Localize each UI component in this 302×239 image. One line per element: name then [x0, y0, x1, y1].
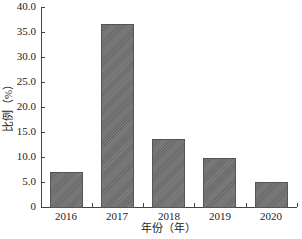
- x-tick-mark: [297, 203, 298, 207]
- bar-2018: [152, 139, 185, 208]
- x-tick-label: 2016: [46, 211, 86, 222]
- bar-2019: [203, 158, 236, 208]
- y-tick-mark: [41, 157, 45, 158]
- bar-chart: 05.010.015.020.025.030.035.040.0 2016201…: [0, 0, 302, 239]
- x-tick-label: 2018: [149, 211, 189, 222]
- y-tick-label: 40.0: [2, 1, 36, 12]
- bar-2016: [50, 172, 83, 208]
- y-tick-label: 5.0: [2, 176, 36, 187]
- y-tick-label: 30.0: [2, 51, 36, 62]
- y-tick-label: 10.0: [2, 151, 36, 162]
- y-tick-mark: [41, 107, 45, 108]
- y-tick-mark: [41, 132, 45, 133]
- x-tick-label: 2017: [97, 211, 137, 222]
- x-tick-label: 2020: [251, 211, 291, 222]
- y-tick-label: 0: [2, 201, 36, 212]
- y-tick-mark: [41, 32, 45, 33]
- x-axis-title: 年份（年）: [118, 223, 218, 234]
- y-tick-mark: [41, 7, 45, 8]
- x-tick-mark: [246, 203, 247, 207]
- x-tick-mark: [143, 203, 144, 207]
- x-tick-mark: [194, 203, 195, 207]
- y-tick-mark: [41, 57, 45, 58]
- y-tick-mark: [41, 182, 45, 183]
- y-tick-mark: [41, 82, 45, 83]
- y-axis-title: 比例（%）: [3, 71, 14, 141]
- y-tick-mark: [41, 207, 45, 208]
- bar-2020: [255, 182, 288, 208]
- y-tick-label: 35.0: [2, 26, 36, 37]
- bar-2017: [101, 24, 134, 208]
- x-tick-mark: [92, 203, 93, 207]
- x-tick-label: 2019: [200, 211, 240, 222]
